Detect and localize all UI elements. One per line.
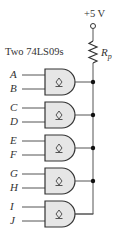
input-label: J	[10, 215, 15, 226]
junction-dot-icon	[91, 113, 95, 117]
input-label: C	[10, 102, 17, 113]
and-gate-icon	[45, 135, 75, 161]
supply-terminal-icon	[91, 24, 96, 29]
input-label: A	[10, 69, 17, 80]
input-label: D	[10, 116, 18, 127]
pullup-resistor-icon	[89, 41, 97, 63]
input-label: G	[10, 168, 18, 179]
input-label: I	[10, 201, 14, 212]
and-gate-icon	[45, 168, 75, 194]
and-gate-open-collector	[22, 102, 95, 128]
input-label: B	[10, 83, 17, 94]
and-gate-open-collector	[22, 201, 93, 227]
and-gate-open-collector	[22, 69, 95, 95]
junction-dot-icon	[91, 179, 95, 183]
and-gate-open-collector	[22, 168, 95, 194]
input-label: H	[10, 182, 18, 193]
and-gate-icon	[45, 102, 75, 128]
and-gate-open-collector	[22, 135, 95, 161]
supply-label: +5 V	[84, 8, 105, 19]
wired-and-circuit	[0, 0, 120, 241]
resistor-label: Rp	[101, 47, 112, 62]
resistor-subscript: p	[108, 52, 112, 61]
and-gate-icon	[45, 69, 75, 95]
junction-dot-icon	[91, 80, 95, 84]
and-gate-icon	[45, 201, 75, 227]
input-label: F	[10, 149, 17, 160]
resistor-symbol: R	[101, 46, 108, 58]
input-label: E	[10, 135, 17, 146]
chip-label: Two 74LS09s	[5, 46, 63, 57]
junction-dot-icon	[91, 146, 95, 150]
